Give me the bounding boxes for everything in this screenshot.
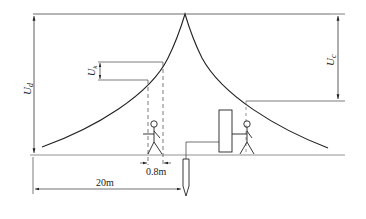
step-voltage-person bbox=[143, 62, 163, 165]
uc-label: Uc bbox=[324, 54, 338, 66]
touch-voltage-person bbox=[232, 101, 254, 155]
potential-curve bbox=[42, 14, 328, 148]
step-distance-dimension: 0.8m bbox=[140, 163, 171, 177]
step-distance-label: 0.8m bbox=[146, 166, 167, 177]
uc-dimension: Uc bbox=[246, 14, 345, 101]
ud-label: Ud bbox=[21, 82, 35, 95]
uk-dimension: Uk bbox=[86, 62, 163, 80]
grounding-electrode bbox=[183, 142, 219, 196]
potential-distribution-diagram: Ud Uk Uc 0.8m 2 bbox=[0, 0, 366, 219]
electrical-device bbox=[219, 110, 232, 152]
total-distance-label: 20m bbox=[96, 177, 114, 188]
uk-label: Uk bbox=[86, 65, 99, 76]
ud-dimension: Ud bbox=[21, 16, 35, 153]
